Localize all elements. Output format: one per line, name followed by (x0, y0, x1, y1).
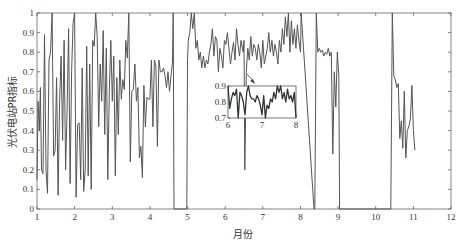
x-axis-label: 月份 (233, 229, 253, 240)
x-tick-label: 1 (35, 212, 40, 222)
inset-y-tick-label: 0.7 (215, 113, 227, 123)
y-tick-label: 1 (30, 8, 35, 18)
inset-y-tick-label: 0.8 (215, 97, 227, 107)
y-tick-label: 0.7 (23, 67, 35, 77)
y-tick-label: 0.6 (23, 86, 35, 96)
y-tick-label: 0.3 (23, 145, 35, 155)
y-tick-label: 0.2 (23, 165, 34, 175)
x-tick-label: 3 (110, 212, 115, 222)
x-tick-label: 4 (148, 212, 153, 222)
x-tick-label: 11 (409, 212, 418, 222)
y-tick-label: 0.1 (23, 184, 34, 194)
x-tick-label: 6 (223, 212, 228, 222)
annotation-arrow (247, 74, 255, 84)
pr-line-chart: 123456789101112 00.10.20.30.40.50.60.70.… (0, 0, 468, 246)
y-tick-label: 0.4 (23, 126, 35, 136)
y-tick-label: 0.8 (23, 47, 35, 57)
x-tick-label: 12 (447, 212, 456, 222)
inset-x-tick-label: 8 (294, 120, 299, 130)
inset-x-tick-label: 6 (226, 120, 231, 130)
inset-y-tick-label: 0.9 (215, 81, 227, 91)
x-tick-label: 8 (298, 212, 303, 222)
inset-x-tick-label: 7 (260, 120, 265, 130)
y-tick-label: 0 (30, 204, 35, 214)
x-tick-label: 10 (371, 212, 381, 222)
y-axis-label: 光伏电站PR指标 (6, 76, 18, 149)
pr-series-line (37, 13, 415, 209)
inset-zoom-chart: 6780.70.80.9 (215, 81, 299, 130)
x-tick-label: 7 (261, 212, 266, 222)
x-tick-label: 2 (72, 212, 77, 222)
x-tick-label: 5 (185, 212, 190, 222)
x-tick-label: 9 (336, 212, 341, 222)
y-tick-label: 0.9 (23, 28, 35, 38)
y-tick-label: 0.5 (23, 106, 35, 116)
